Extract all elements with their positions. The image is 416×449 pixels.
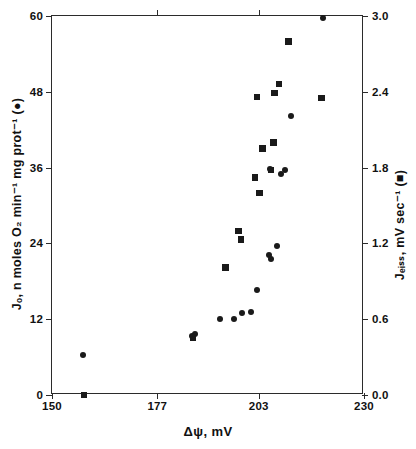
x-axis-tick-label: 230 <box>354 400 374 412</box>
data-point-circle <box>231 316 237 322</box>
data-point-square <box>318 95 325 102</box>
x-axis-title: Δψ, mV <box>0 424 416 439</box>
y-axis-left-title-text: Jₒ, n moles O₂ min⁻¹ mg prot⁻¹ (●) <box>10 98 24 311</box>
y-axis-right-tick-label: 0.6 <box>372 313 389 325</box>
x-axis-tick-top <box>259 10 260 16</box>
x-axis-tick <box>259 393 260 399</box>
x-axis-tick-label: 203 <box>249 400 269 412</box>
data-point-square <box>271 90 278 97</box>
y-axis-right-tick-label: 3.0 <box>372 10 389 22</box>
data-point-circle <box>248 309 254 315</box>
y-axis-right-tick <box>362 243 368 244</box>
x-axis-tick <box>157 393 158 399</box>
data-point-circle <box>274 243 280 249</box>
scatter-plot-figure: 012243648600.00.61.21.82.43.015017720323… <box>0 0 416 449</box>
data-point-square <box>276 81 283 88</box>
data-point-square <box>190 335 197 342</box>
y-axis-right-title-text: Jₑᵢₛₛ, mV sec⁻¹ (■) <box>393 170 407 280</box>
data-point-circle <box>282 167 288 173</box>
y-axis-left-tick-label: 60 <box>30 10 43 22</box>
y-axis-left-tick <box>46 92 52 93</box>
y-axis-right-tick <box>362 319 368 320</box>
data-point-square <box>252 174 259 181</box>
y-axis-right-tick <box>362 16 368 17</box>
x-axis-tick-label: 177 <box>147 400 167 412</box>
y-axis-left-tick-label: 48 <box>30 86 43 98</box>
y-axis-right-tick <box>362 92 368 93</box>
x-axis-title-text: Δψ, mV <box>184 424 233 439</box>
x-axis-tick-top <box>157 10 158 16</box>
data-point-circle <box>288 113 294 119</box>
x-axis-tick <box>52 393 53 399</box>
data-point-circle <box>80 352 86 358</box>
data-point-square <box>235 228 242 235</box>
data-point-circle <box>254 287 260 293</box>
y-axis-left-title: Jₒ, n moles O₂ min⁻¹ mg prot⁻¹ (●) <box>9 39 24 369</box>
data-point-circle <box>239 310 245 316</box>
plot-area: 012243648600.00.61.21.82.43.015017720323… <box>51 15 363 394</box>
y-axis-left-tick <box>46 16 52 17</box>
data-point-square <box>222 264 229 271</box>
y-axis-left-tick-label: 36 <box>30 162 43 174</box>
data-point-square <box>270 139 277 146</box>
y-axis-right-tick-label: 0.0 <box>372 389 389 401</box>
y-axis-right-tick-label: 1.2 <box>372 237 389 249</box>
data-point-square <box>81 392 88 399</box>
x-axis-tick-label: 150 <box>42 400 62 412</box>
data-point-square <box>268 167 275 174</box>
y-axis-right-title: Jₑᵢₛₛ, mV sec⁻¹ (■) <box>392 115 407 335</box>
data-point-circle <box>320 15 326 21</box>
y-axis-left-tick <box>46 243 52 244</box>
data-point-circle <box>217 316 223 322</box>
data-point-square <box>254 94 261 101</box>
y-axis-left-tick <box>46 319 52 320</box>
data-point-square <box>285 38 292 45</box>
x-axis-tick <box>364 393 365 399</box>
y-axis-right-tick-label: 2.4 <box>372 86 389 98</box>
data-point-square <box>256 190 263 197</box>
y-axis-right-tick <box>362 395 368 396</box>
y-axis-left-tick-label: 12 <box>30 313 43 325</box>
data-point-circle <box>268 256 274 262</box>
y-axis-right-tick <box>362 168 368 169</box>
y-axis-left-tick <box>46 168 52 169</box>
y-axis-right-tick-label: 1.8 <box>372 162 389 174</box>
y-axis-left-tick-label: 24 <box>30 237 43 249</box>
data-point-square <box>259 145 266 152</box>
data-point-square <box>238 236 245 243</box>
